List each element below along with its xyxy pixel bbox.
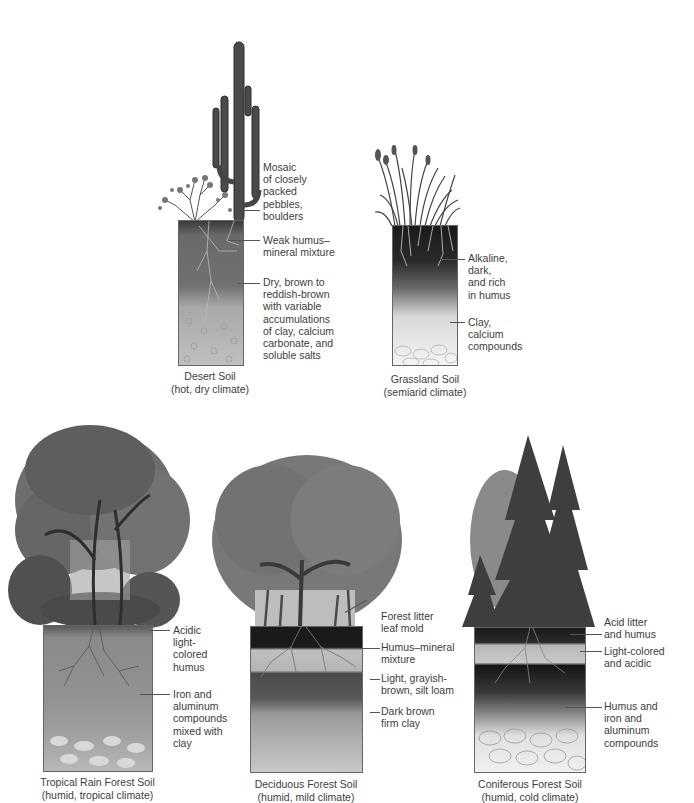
coniferous-label-subsoil: Humus and iron and aluminum compounds: [604, 700, 658, 749]
coniferous-roots-illustration: [475, 628, 586, 773]
coniferous-label-litter: Acid litter and humus: [604, 616, 656, 640]
soil-column-coniferous: [474, 627, 586, 773]
coniferous-caption: Coniferous Forest Soil (humid, cold clim…: [460, 778, 600, 803]
coniferous-caption-title: Coniferous Forest Soil: [460, 778, 600, 791]
coniferous-caption-climate: (humid, cold climate): [460, 791, 600, 803]
coniferous-label-leached: Light-colored and acidic: [604, 645, 665, 669]
